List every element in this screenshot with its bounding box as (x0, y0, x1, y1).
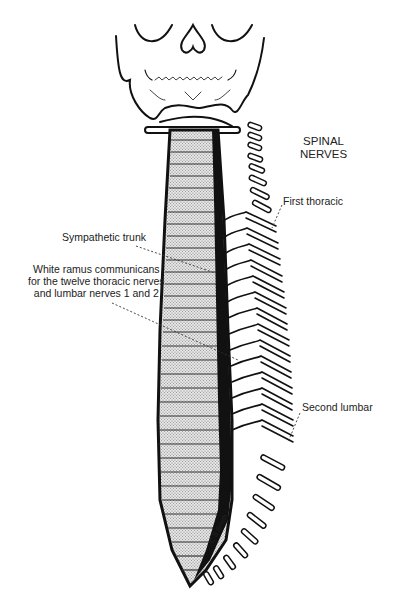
label-white-ramus-line-3: and lumbar nerves 1 and 2 (28, 287, 165, 299)
label-spinal-line-1: SPINAL (300, 135, 347, 148)
label-white-ramus-line-2: for the twelve thoracic nerves (28, 275, 165, 287)
label-second-lumbar: Second lumbar (302, 401, 373, 413)
skull-base (116, 25, 264, 126)
label-white-ramus-line-1: White ramus communicans (28, 263, 165, 275)
label-sympathetic-trunk: Sympathetic trunk (62, 231, 146, 243)
spinal-nerves-diagram (0, 0, 393, 605)
label-white-ramus: White ramus communicans for the twelve t… (28, 263, 165, 299)
label-spinal-line-2: NERVES (300, 148, 347, 161)
label-spinal-nerves: SPINAL NERVES (300, 135, 347, 161)
label-first-thoracic: First thoracic (283, 195, 343, 207)
